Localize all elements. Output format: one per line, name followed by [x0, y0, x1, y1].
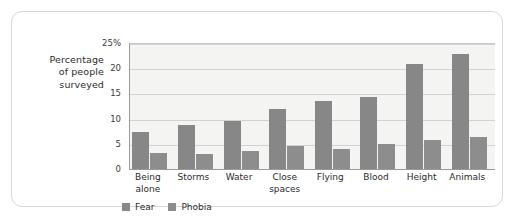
x-axis-label: Animals [444, 172, 490, 184]
y-axis-tick-label: 0 [116, 164, 121, 174]
bar-group [452, 43, 487, 169]
y-axis-title-line: Percentage [18, 54, 104, 66]
legend-swatch-icon [168, 203, 176, 211]
x-axis-label-line: Blood [353, 172, 399, 184]
y-axis-tick-label: 25% [102, 38, 121, 48]
x-axis-label-line: Flying [308, 172, 354, 184]
bar-fear [269, 109, 286, 169]
bars-layer [129, 43, 494, 169]
bar-fear [132, 132, 149, 169]
legend-label: Phobia [181, 202, 211, 212]
y-axis-title-line: of people [18, 66, 104, 78]
legend-entry-fear[interactable]: Fear [122, 202, 154, 212]
bar-phobia [378, 144, 395, 169]
legend-swatch-icon [122, 203, 130, 211]
chart-legend: FearPhobia [122, 202, 212, 212]
y-axis-tick-label: 15 [110, 88, 121, 98]
chart-frame: Percentageof peoplesurveyed 0510152025% … [11, 11, 503, 207]
bar-fear [452, 54, 469, 169]
bar-phobia [242, 151, 259, 169]
bar-phobia [470, 137, 487, 169]
x-axis-label-line: Animals [444, 172, 490, 184]
x-axis-label: Storms [171, 172, 217, 184]
x-axis-label-line: Being [125, 172, 171, 184]
y-axis-title-line: surveyed [18, 79, 104, 91]
bar-group [406, 43, 441, 169]
x-axis-label: Height [399, 172, 445, 184]
x-axis-label: Beingalone [125, 172, 171, 195]
bar-group [360, 43, 395, 169]
y-axis-tick-labels: 0510152025% [98, 43, 125, 169]
bar-fear [406, 64, 423, 169]
legend-label: Fear [135, 202, 154, 212]
bar-fear [224, 121, 241, 169]
bar-phobia [196, 154, 213, 169]
bar-phobia [150, 153, 167, 169]
x-axis-label-line: spaces [262, 184, 308, 196]
bar-phobia [287, 146, 304, 169]
y-axis-title: Percentageof peoplesurveyed [18, 54, 104, 91]
x-axis-label-line: Water [216, 172, 262, 184]
y-axis-tick-label: 20 [110, 63, 121, 73]
x-axis-label-line: Close [262, 172, 308, 184]
bar-phobia [333, 149, 350, 169]
bar-group [315, 43, 350, 169]
x-axis-label: Blood [353, 172, 399, 184]
x-axis-label: Closespaces [262, 172, 308, 195]
gridline [130, 169, 495, 170]
bar-fear [178, 125, 195, 169]
x-axis-category-labels: BeingaloneStormsWaterClosespacesFlyingBl… [129, 172, 494, 200]
bar-fear [315, 101, 332, 169]
x-axis-label-line: alone [125, 184, 171, 196]
x-axis-label-line: Height [399, 172, 445, 184]
bar-fear [360, 97, 377, 169]
bar-group [132, 43, 167, 169]
bar-group [269, 43, 304, 169]
bar-group [178, 43, 213, 169]
x-axis-label: Flying [308, 172, 354, 184]
x-axis-label-line: Storms [171, 172, 217, 184]
bar-group [224, 43, 259, 169]
bar-phobia [424, 140, 441, 169]
legend-entry-phobia[interactable]: Phobia [168, 202, 211, 212]
y-axis-tick-label: 10 [110, 114, 121, 124]
x-axis-label: Water [216, 172, 262, 184]
y-axis-tick-label: 5 [116, 139, 121, 149]
